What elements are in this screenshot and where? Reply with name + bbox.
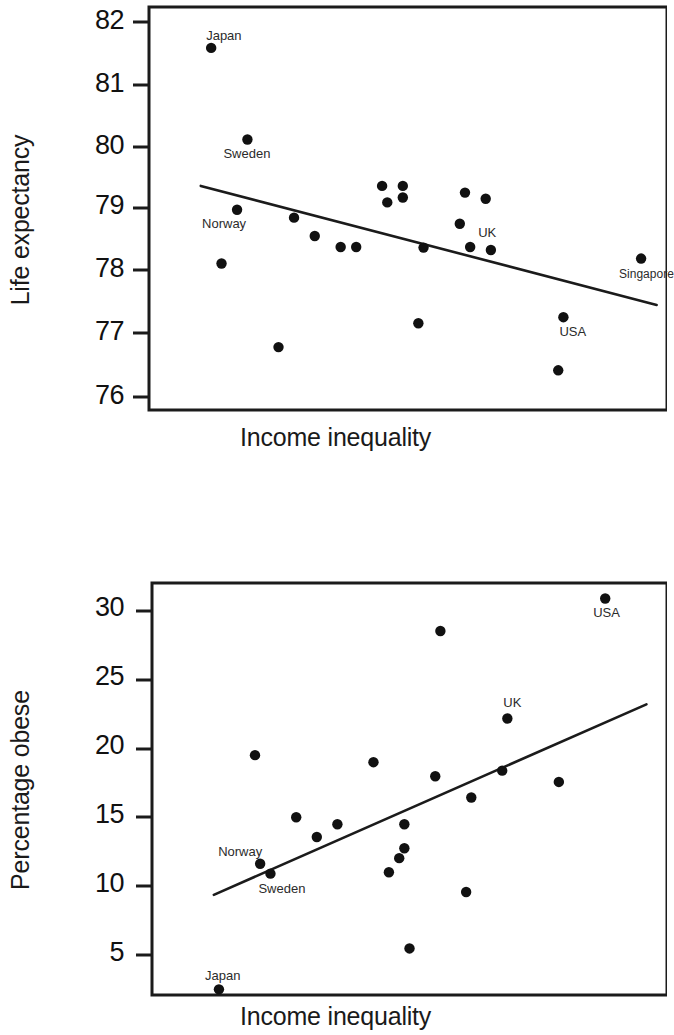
scatter-plot-life-expectancy xyxy=(0,0,667,470)
x-axis-title-life-expectancy: Income inequality xyxy=(240,423,431,452)
chart-life-expectancy: Life expectancy 82 81 80 79 78 77 76 Inc… xyxy=(0,0,667,470)
data-point-label: Singapore xyxy=(619,267,674,281)
data-point xyxy=(455,219,465,229)
data-point xyxy=(418,242,428,252)
data-point-label: Norway xyxy=(218,844,262,859)
data-point xyxy=(466,792,476,802)
data-point xyxy=(332,819,342,829)
data-point-label: USA xyxy=(593,605,620,620)
data-point xyxy=(636,253,646,263)
data-point-label: Japan xyxy=(205,968,240,983)
data-point xyxy=(460,187,470,197)
scatter-plot-percentage-obese xyxy=(0,565,667,1035)
data-point xyxy=(435,626,445,636)
plot-frame xyxy=(152,583,667,995)
data-point xyxy=(553,365,563,375)
data-point-label: Sweden xyxy=(223,146,270,161)
data-point xyxy=(399,843,409,853)
data-point xyxy=(465,242,475,252)
data-point xyxy=(250,750,260,760)
data-point xyxy=(232,205,242,215)
data-point xyxy=(312,832,322,842)
data-point xyxy=(497,765,507,775)
data-point xyxy=(310,231,320,241)
data-point xyxy=(502,713,512,723)
trend-line xyxy=(214,704,647,894)
data-point xyxy=(377,181,387,191)
chart-percentage-obese: Percentage obese 30 25 20 15 10 5 Income… xyxy=(0,565,667,1035)
data-point-label: Japan xyxy=(206,28,241,43)
plot-frame xyxy=(149,7,667,410)
data-point xyxy=(384,867,394,877)
data-point xyxy=(558,312,568,322)
data-point-label: Norway xyxy=(202,216,246,231)
data-point xyxy=(214,984,224,994)
data-point xyxy=(242,134,252,144)
data-point xyxy=(398,192,408,202)
data-point xyxy=(351,242,361,252)
data-point xyxy=(554,777,564,787)
data-point xyxy=(430,771,440,781)
data-point xyxy=(265,868,275,878)
data-point xyxy=(481,194,491,204)
data-point xyxy=(394,853,404,863)
data-point-label: UK xyxy=(478,225,496,240)
trend-line xyxy=(201,186,657,305)
data-point xyxy=(335,242,345,252)
data-point xyxy=(206,43,216,53)
data-point xyxy=(398,181,408,191)
data-point xyxy=(399,819,409,829)
data-point-label: UK xyxy=(503,695,521,710)
data-point xyxy=(291,812,301,822)
data-point xyxy=(413,318,423,328)
data-point-label: Sweden xyxy=(258,881,305,896)
data-point xyxy=(255,859,265,869)
data-point xyxy=(273,342,283,352)
x-axis-title-percentage-obese: Income inequality xyxy=(240,1002,431,1031)
data-point xyxy=(382,197,392,207)
data-point xyxy=(289,212,299,222)
data-point xyxy=(216,258,226,268)
data-point xyxy=(486,245,496,255)
data-point xyxy=(600,593,610,603)
data-point-label: USA xyxy=(559,324,586,339)
data-point xyxy=(461,887,471,897)
data-point xyxy=(404,943,414,953)
data-point xyxy=(368,757,378,767)
